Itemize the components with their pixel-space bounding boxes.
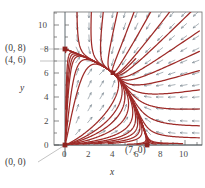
x-tick-label-0: 0 [62,150,67,159]
equilibrium-0-8-label: (0, 8) [5,44,26,54]
y-tick-label-10: 10 [38,21,47,30]
y-tick-label-0: 0 [44,141,49,150]
equilibrium-4-6-label: (4, 6) [5,56,26,66]
x-tick-label-2: 2 [86,150,91,159]
phase-portrait-svg [0,0,205,188]
y-tick-label-8: 8 [44,45,49,54]
x-tick-label-10: 10 [179,150,188,159]
equilibrium-0-0-label: (0, 0) [5,158,26,168]
y-tick-label-2: 2 [44,117,49,126]
x-tick-label-8: 8 [158,150,163,159]
equilibrium-7-0-label: (7, 0) [125,146,146,156]
x-axis-label: x [110,168,114,178]
y-tick-label-6: 6 [44,69,49,78]
y-tick-label-4: 4 [44,93,49,102]
x-tick-label-4: 4 [110,150,115,159]
y-axis-label: y [20,84,24,94]
figure-container: 0 2 4 6 8 10 0 2 4 6 8 10 y x (0, 8) (4,… [0,0,205,188]
